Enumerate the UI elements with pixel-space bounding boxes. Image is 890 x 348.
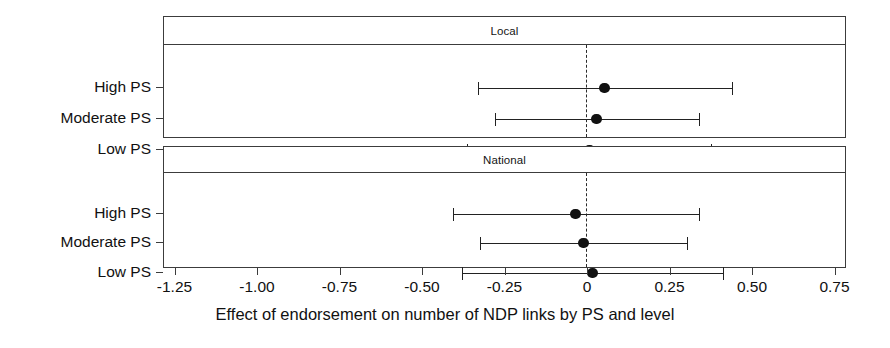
panel-strip-label-national: National <box>483 154 526 166</box>
y-axis-label-moderate-ps: Moderate PS <box>0 233 151 251</box>
x-axis-label: -1.00 <box>239 278 274 296</box>
y-axis-label-high-ps: High PS <box>0 78 151 96</box>
x-axis-label: 0 <box>583 278 592 296</box>
forest-plot-figure: Local National High PSModerate PSLow PSH… <box>0 0 890 348</box>
ci-cap-lower <box>480 237 481 250</box>
estimate-point <box>578 238 589 249</box>
x-axis-tick <box>422 268 423 275</box>
ci-cap-upper <box>699 208 700 221</box>
x-axis-tick <box>505 268 506 275</box>
x-axis-label: 0.25 <box>654 278 684 296</box>
x-axis-label: 0.75 <box>819 278 849 296</box>
panel-strip-local: Local <box>164 17 845 45</box>
ci-cap-lower <box>478 82 479 95</box>
ci-cap-upper <box>732 82 733 95</box>
x-axis-title: Effect of endorsement on number of NDP l… <box>0 305 890 324</box>
ci-cap-lower <box>495 113 496 126</box>
estimate-point <box>587 268 598 279</box>
x-axis-label: -0.25 <box>487 278 522 296</box>
ci-cap-lower <box>453 208 454 221</box>
y-axis-tick <box>156 272 163 273</box>
x-axis-label: -0.75 <box>322 278 357 296</box>
x-axis-tick <box>752 268 753 275</box>
zero-reference-line <box>586 173 587 267</box>
panel-local: Local <box>163 16 846 138</box>
y-axis-tick <box>156 118 163 119</box>
x-axis-tick <box>835 268 836 275</box>
x-axis-tick <box>340 268 341 275</box>
ci-cap-upper <box>699 113 700 126</box>
y-axis-tick <box>156 213 163 214</box>
ci-cap-upper <box>687 237 688 250</box>
panel-strip-label-local: Local <box>491 25 519 37</box>
y-axis-tick <box>156 87 163 88</box>
zero-reference-line <box>586 45 587 137</box>
estimate-point <box>591 114 602 125</box>
y-axis-tick <box>156 242 163 243</box>
y-axis-tick <box>156 149 163 150</box>
x-axis-tick <box>670 268 671 275</box>
plot-area-local <box>164 45 845 137</box>
y-axis-label-high-ps: High PS <box>0 204 151 222</box>
panel-national: National <box>163 146 846 268</box>
x-axis-label: -1.25 <box>157 278 192 296</box>
y-axis-label-moderate-ps: Moderate PS <box>0 109 151 127</box>
estimate-point <box>599 83 610 94</box>
ci-cap-lower <box>462 267 463 280</box>
estimate-point <box>570 209 581 220</box>
x-axis-tick <box>257 268 258 275</box>
y-axis-label-low-ps: Low PS <box>0 263 151 281</box>
x-axis-label: 0.50 <box>737 278 767 296</box>
panel-strip-national: National <box>164 147 845 173</box>
x-axis-tick <box>587 268 588 275</box>
x-axis-label: -0.50 <box>404 278 439 296</box>
plot-area-national <box>164 173 845 267</box>
ci-cap-upper <box>723 267 724 280</box>
x-axis-tick <box>175 268 176 275</box>
y-axis-label-low-ps: Low PS <box>0 140 151 158</box>
